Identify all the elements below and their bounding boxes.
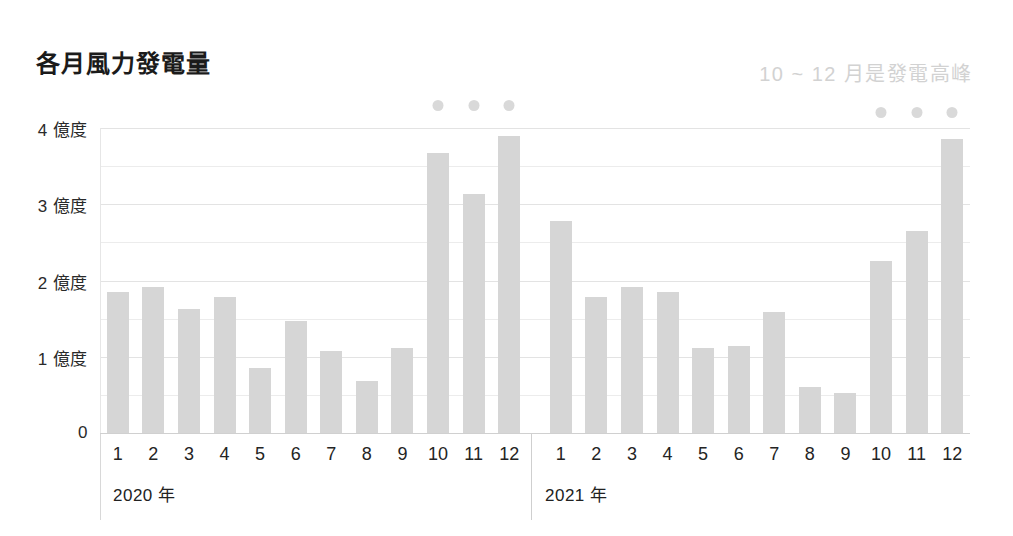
- bar[interactable]: [320, 351, 342, 433]
- bar[interactable]: [657, 292, 679, 433]
- x-axis-tick-label: 6: [291, 444, 301, 465]
- bar[interactable]: [799, 387, 821, 433]
- x-axis-tick-label: 1: [113, 444, 123, 465]
- y-axis-tick-label: 1 億度: [38, 344, 88, 369]
- x-axis-tick-label: 9: [840, 444, 850, 465]
- bar[interactable]: [498, 136, 520, 433]
- x-axis-baseline: [100, 433, 970, 434]
- x-axis-tick-label: 3: [627, 444, 637, 465]
- bar[interactable]: [550, 221, 572, 433]
- x-axis-tick-label: 2: [591, 444, 601, 465]
- chart-subtitle-annotation: 10 ~ 12 月是發電高峰: [759, 58, 973, 87]
- x-axis-tick-label: 8: [362, 444, 372, 465]
- y-axis-tick-label: 2 億度: [38, 268, 88, 293]
- bar[interactable]: [142, 287, 164, 433]
- x-axis-tick-label: 8: [805, 444, 815, 465]
- bar[interactable]: [585, 297, 607, 433]
- x-axis-tick-label: 5: [698, 444, 708, 465]
- x-axis-tick-label: 5: [255, 444, 265, 465]
- x-axis-tick-label: 10: [871, 444, 891, 465]
- bar[interactable]: [391, 348, 413, 433]
- y-axis-tick-label: 4 億度: [38, 116, 88, 141]
- bar[interactable]: [941, 139, 963, 433]
- bar[interactable]: [249, 368, 271, 433]
- x-axis-tick-label: 7: [769, 444, 779, 465]
- bar[interactable]: [214, 297, 236, 433]
- bar[interactable]: [692, 348, 714, 433]
- bar[interactable]: [728, 346, 750, 433]
- bar[interactable]: [178, 309, 200, 433]
- peak-dot-marker: [504, 100, 515, 111]
- peak-dot-marker: [911, 107, 922, 118]
- x-axis-tick-label: 2: [148, 444, 158, 465]
- year-label-2020: 2020 年: [113, 481, 176, 506]
- x-axis-tick-label: 12: [942, 444, 962, 465]
- y-axis-tick-label: 0: [78, 423, 88, 443]
- x-axis-tick-label: 9: [397, 444, 407, 465]
- bar[interactable]: [107, 292, 129, 433]
- x-axis-tick-label: 4: [220, 444, 230, 465]
- x-axis-tick-label: 3: [184, 444, 194, 465]
- x-axis-tick-label: 7: [326, 444, 336, 465]
- x-axis-tick-label: 6: [734, 444, 744, 465]
- bar[interactable]: [763, 312, 785, 433]
- x-axis-tick-labels: 123456789101112123456789101112: [100, 444, 970, 474]
- y-axis-tick-labels: 4 億度3 億度2 億度1 億度0: [0, 0, 88, 536]
- x-axis-tick-label: 4: [663, 444, 673, 465]
- bar[interactable]: [463, 194, 485, 433]
- peak-dot-marker: [947, 107, 958, 118]
- bar[interactable]: [834, 393, 856, 433]
- year-label-2021: 2021 年: [545, 481, 608, 506]
- peak-dot-marker: [876, 107, 887, 118]
- peak-dot-marker: [468, 100, 479, 111]
- x-axis-tick-label: 12: [499, 444, 519, 465]
- bar-series-layer: [100, 128, 970, 433]
- x-axis-tick-label: 1: [556, 444, 566, 465]
- x-axis-tick-label: 10: [428, 444, 448, 465]
- bar[interactable]: [356, 381, 378, 433]
- bar[interactable]: [906, 231, 928, 433]
- y-axis-tick-label: 3 億度: [38, 192, 88, 217]
- bar[interactable]: [621, 287, 643, 433]
- x-axis-tick-label: 11: [464, 444, 483, 465]
- peak-dot-marker: [433, 100, 444, 111]
- bar[interactable]: [285, 321, 307, 433]
- bar[interactable]: [870, 261, 892, 433]
- x-axis-tick-label: 11: [907, 444, 926, 465]
- bar[interactable]: [427, 153, 449, 433]
- chart-page: 各月風力發電量 10 ~ 12 月是發電高峰 4 億度3 億度2 億度1 億度0…: [0, 0, 1013, 536]
